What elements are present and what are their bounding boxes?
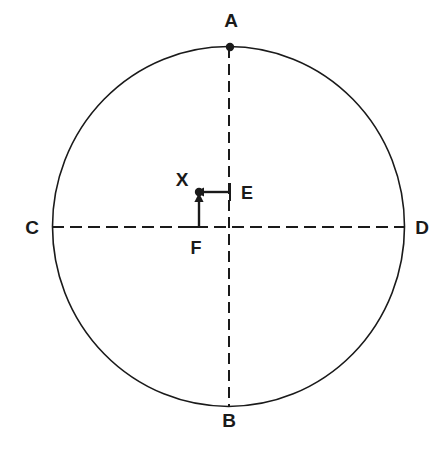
diagram-canvas: ABCDX EF: [0, 0, 443, 470]
arrow-label-f: F: [191, 238, 202, 258]
point-label-b: B: [222, 410, 236, 431]
point-label-x: X: [176, 169, 189, 190]
point-label-a: A: [224, 10, 238, 31]
point-label-d: D: [415, 217, 429, 238]
point-dot-a: [226, 43, 234, 51]
point-label-c: C: [25, 217, 39, 238]
arrow-label-e: E: [241, 183, 253, 203]
circle-diagram: ABCDX EF: [0, 0, 443, 470]
diagram-background: [0, 0, 443, 470]
point-dot-x: [195, 188, 203, 196]
